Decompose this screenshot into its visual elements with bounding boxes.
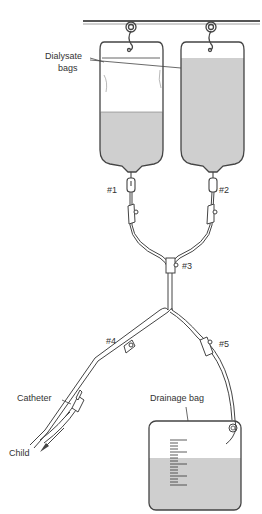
catheter-connector xyxy=(72,390,84,412)
tubing-upper xyxy=(130,192,214,310)
label-child: Child xyxy=(9,449,30,458)
right-dialysate-bag xyxy=(181,42,244,172)
clamp-2[interactable] xyxy=(207,204,217,224)
label-pointer-drainage xyxy=(186,407,188,421)
clamp-3[interactable] xyxy=(166,258,178,273)
label-bags: bags xyxy=(58,64,78,73)
clamp-1[interactable] xyxy=(128,204,138,224)
label-pointer-dialysate xyxy=(90,58,181,68)
drainage-bag xyxy=(149,421,241,510)
dialysis-setup-diagram xyxy=(0,0,262,514)
label-drainage-bag: Drainage bag xyxy=(150,394,204,403)
right-drip-chamber xyxy=(209,172,217,192)
label-clamp-5: #5 xyxy=(219,340,229,349)
label-clamp-3: #3 xyxy=(182,262,192,271)
right-bag-hook xyxy=(206,22,216,52)
hanging-rod xyxy=(83,21,260,24)
label-clamp-1: #1 xyxy=(107,186,117,195)
catheter-tube xyxy=(40,408,76,443)
left-drip-chamber xyxy=(127,172,135,192)
label-catheter: Catheter xyxy=(17,394,52,403)
left-bag-hook xyxy=(126,22,136,52)
tubing-lower xyxy=(30,308,236,448)
label-clamp-2: #2 xyxy=(219,186,229,195)
clamp-5[interactable] xyxy=(200,337,213,356)
label-clamp-4: #4 xyxy=(106,337,116,346)
label-dialysate: Dialysate xyxy=(45,52,82,61)
